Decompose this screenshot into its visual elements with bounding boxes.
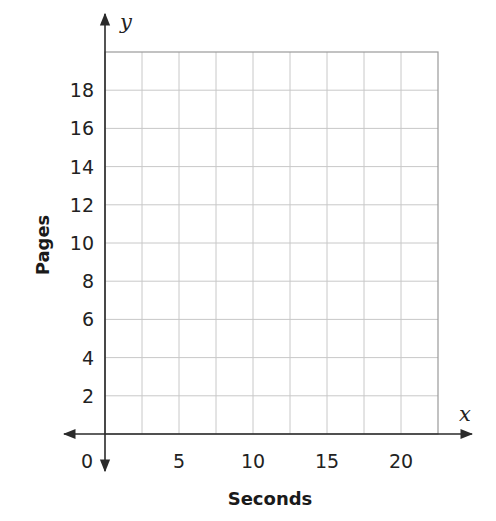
y-tick-label: 12 xyxy=(70,194,94,216)
x-tick-label: 10 xyxy=(241,450,265,472)
x-tick-label: 0 xyxy=(81,450,93,472)
y-tick-label: 14 xyxy=(70,156,94,178)
y-tick-label: 18 xyxy=(70,79,94,101)
coordinate-grid-chart: 05101520 24681012141618 x y Seconds Page… xyxy=(0,0,496,521)
y-tick-label: 2 xyxy=(82,385,94,407)
y-axis-variable-label: y xyxy=(119,10,133,34)
y-tick-label: 8 xyxy=(82,270,94,292)
y-tick-labels: 24681012141618 xyxy=(70,79,94,407)
x-tick-labels: 05101520 xyxy=(81,450,413,472)
y-axis-title: Pages xyxy=(32,215,53,276)
x-tick-label: 20 xyxy=(389,450,413,472)
y-tick-label: 16 xyxy=(70,117,94,139)
x-axis-variable-label: x xyxy=(459,402,471,426)
grid-lines xyxy=(105,52,438,434)
x-axis-title: Seconds xyxy=(228,488,313,509)
x-tick-label: 5 xyxy=(173,450,185,472)
y-tick-label: 10 xyxy=(70,232,94,254)
y-tick-label: 6 xyxy=(82,308,94,330)
x-tick-label: 15 xyxy=(315,450,339,472)
y-tick-label: 4 xyxy=(82,347,94,369)
